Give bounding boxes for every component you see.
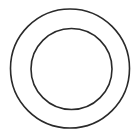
inner-circle (31, 29, 112, 110)
concentric-circles-diagram (0, 0, 135, 138)
